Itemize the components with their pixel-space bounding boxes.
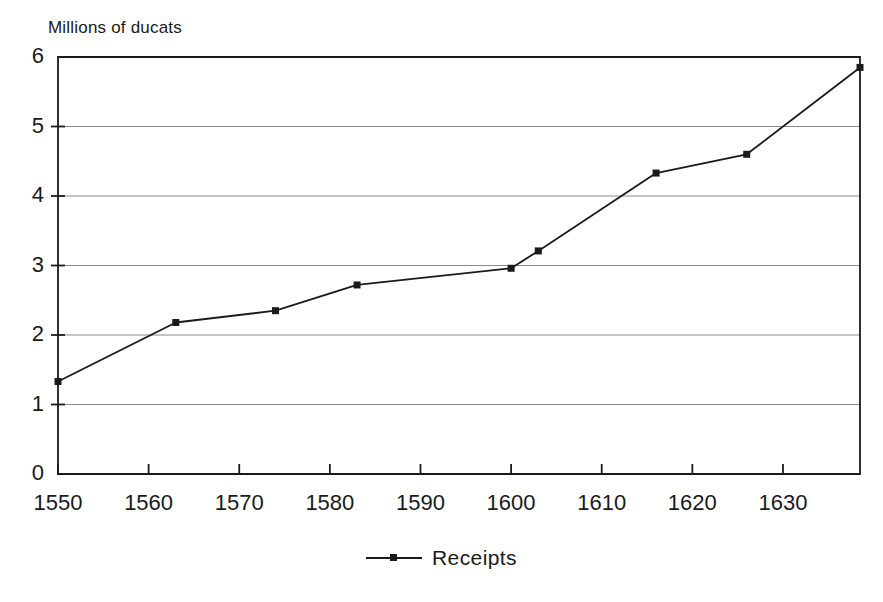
series-line-receipts [58, 67, 860, 381]
legend-label-receipts: Receipts [432, 546, 517, 570]
legend-square-marker-icon [390, 554, 397, 561]
x-axis-tick-label: 1560 [112, 492, 186, 514]
y-axis-tick-label: 0 [18, 462, 44, 484]
data-point-marker [653, 170, 660, 177]
x-axis-tick-label: 1600 [474, 492, 548, 514]
chart-legend: Receipts [0, 546, 883, 570]
y-axis-title: Millions of ducats [48, 18, 182, 38]
data-point-marker [354, 281, 361, 288]
x-axis-tick-label: 1620 [655, 492, 729, 514]
y-axis-tick-label: 2 [18, 323, 44, 345]
y-axis-tick-label: 1 [18, 393, 44, 415]
x-axis-tick-label: 1590 [383, 492, 457, 514]
data-point-marker [857, 64, 864, 71]
y-axis-tick-label: 5 [18, 115, 44, 137]
data-point-marker [535, 247, 542, 254]
y-axis-tick-label: 3 [18, 254, 44, 276]
data-point-marker [172, 319, 179, 326]
data-point-marker [743, 151, 750, 158]
x-axis-tick-label: 1610 [565, 492, 639, 514]
x-axis-tick-label: 1550 [21, 492, 95, 514]
data-point-marker [272, 307, 279, 314]
y-axis-tick-label: 6 [18, 45, 44, 67]
x-axis-tick-label: 1580 [293, 492, 367, 514]
data-point-marker [55, 378, 62, 385]
data-point-marker [508, 265, 515, 272]
y-axis-tick-label: 4 [18, 184, 44, 206]
chart-figure: Millions of ducats 0123456 1550156015701… [0, 0, 883, 602]
x-axis-tick-label: 1570 [202, 492, 276, 514]
x-axis-tick-label: 1630 [746, 492, 820, 514]
legend-swatch-receipts [366, 552, 422, 564]
